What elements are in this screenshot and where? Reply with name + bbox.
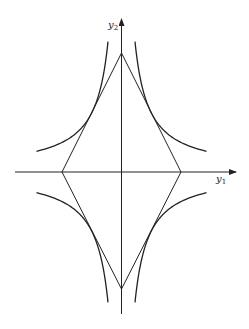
- hyperbola-branch-bottom-right: [135, 193, 207, 303]
- hyperbola-branch-bottom-left: [37, 193, 109, 303]
- diagram-canvas: y2 y1: [0, 0, 249, 329]
- hyperbola-branch-top-right: [135, 42, 207, 152]
- hyperbola-branch-top-left: [37, 42, 109, 152]
- y2-axis-label: y2: [107, 19, 118, 32]
- y1-axis-label: y1: [215, 173, 226, 186]
